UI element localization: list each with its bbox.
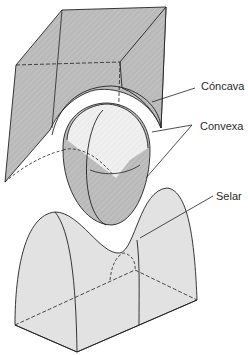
label-saddle: Selar: [216, 190, 242, 202]
label-convex: Convexa: [200, 120, 243, 132]
label-concave: Cóncava: [201, 80, 244, 92]
surface-types-diagram: [0, 0, 248, 355]
convex-shape: [63, 103, 150, 225]
